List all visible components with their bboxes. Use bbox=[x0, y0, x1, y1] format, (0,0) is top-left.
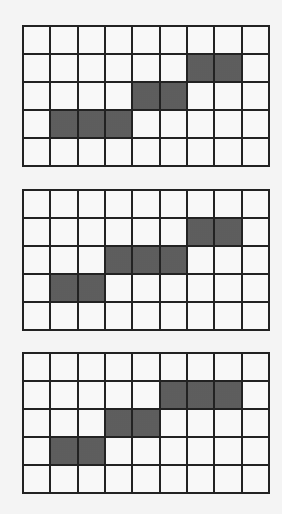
empty-pixel-cell bbox=[160, 110, 187, 138]
filled-pixel-cell bbox=[50, 437, 77, 465]
empty-pixel-cell bbox=[50, 409, 77, 437]
empty-pixel-cell bbox=[50, 353, 77, 381]
pixel-grid-1 bbox=[22, 25, 270, 167]
empty-pixel-cell bbox=[132, 465, 159, 493]
empty-pixel-cell bbox=[242, 110, 269, 138]
empty-pixel-cell bbox=[160, 190, 187, 218]
filled-pixel-cell bbox=[187, 54, 214, 82]
empty-pixel-cell bbox=[78, 302, 105, 330]
empty-pixel-cell bbox=[187, 409, 214, 437]
empty-pixel-cell bbox=[242, 353, 269, 381]
empty-pixel-cell bbox=[187, 353, 214, 381]
empty-pixel-cell bbox=[242, 138, 269, 166]
empty-pixel-cell bbox=[214, 82, 241, 110]
empty-pixel-cell bbox=[78, 26, 105, 54]
empty-pixel-cell bbox=[105, 302, 132, 330]
empty-pixel-cell bbox=[214, 353, 241, 381]
empty-pixel-cell bbox=[23, 465, 50, 493]
empty-pixel-cell bbox=[23, 110, 50, 138]
empty-pixel-cell bbox=[187, 465, 214, 493]
filled-pixel-cell bbox=[214, 218, 241, 246]
empty-pixel-cell bbox=[214, 437, 241, 465]
empty-pixel-cell bbox=[23, 190, 50, 218]
empty-pixel-cell bbox=[78, 381, 105, 409]
empty-pixel-cell bbox=[23, 82, 50, 110]
empty-pixel-cell bbox=[23, 353, 50, 381]
filled-pixel-cell bbox=[105, 110, 132, 138]
empty-pixel-cell bbox=[23, 437, 50, 465]
empty-pixel-cell bbox=[187, 437, 214, 465]
empty-pixel-cell bbox=[50, 302, 77, 330]
filled-pixel-cell bbox=[187, 381, 214, 409]
empty-pixel-cell bbox=[105, 274, 132, 302]
filled-pixel-cell bbox=[78, 110, 105, 138]
empty-pixel-cell bbox=[78, 138, 105, 166]
empty-pixel-cell bbox=[23, 138, 50, 166]
empty-pixel-cell bbox=[187, 190, 214, 218]
empty-pixel-cell bbox=[214, 465, 241, 493]
empty-pixel-cell bbox=[50, 54, 77, 82]
filled-pixel-cell bbox=[160, 82, 187, 110]
empty-pixel-cell bbox=[214, 110, 241, 138]
empty-pixel-cell bbox=[132, 274, 159, 302]
empty-pixel-cell bbox=[242, 246, 269, 274]
filled-pixel-cell bbox=[50, 110, 77, 138]
empty-pixel-cell bbox=[50, 82, 77, 110]
empty-pixel-cell bbox=[160, 54, 187, 82]
empty-pixel-cell bbox=[105, 353, 132, 381]
empty-pixel-cell bbox=[242, 437, 269, 465]
filled-pixel-cell bbox=[160, 246, 187, 274]
empty-pixel-cell bbox=[242, 302, 269, 330]
filled-pixel-cell bbox=[132, 82, 159, 110]
empty-pixel-cell bbox=[187, 138, 214, 166]
empty-pixel-cell bbox=[50, 138, 77, 166]
empty-pixel-cell bbox=[105, 218, 132, 246]
empty-pixel-cell bbox=[105, 26, 132, 54]
empty-pixel-cell bbox=[132, 26, 159, 54]
empty-pixel-cell bbox=[242, 82, 269, 110]
empty-pixel-cell bbox=[187, 82, 214, 110]
empty-pixel-cell bbox=[132, 54, 159, 82]
filled-pixel-cell bbox=[160, 381, 187, 409]
empty-pixel-cell bbox=[105, 138, 132, 166]
empty-pixel-cell bbox=[50, 190, 77, 218]
filled-pixel-cell bbox=[214, 381, 241, 409]
empty-pixel-cell bbox=[78, 190, 105, 218]
empty-pixel-cell bbox=[105, 54, 132, 82]
empty-pixel-cell bbox=[23, 26, 50, 54]
empty-pixel-cell bbox=[214, 26, 241, 54]
empty-pixel-cell bbox=[242, 274, 269, 302]
empty-pixel-cell bbox=[187, 110, 214, 138]
empty-pixel-cell bbox=[160, 138, 187, 166]
empty-pixel-cell bbox=[78, 246, 105, 274]
empty-pixel-cell bbox=[78, 353, 105, 381]
empty-pixel-cell bbox=[160, 302, 187, 330]
empty-pixel-cell bbox=[132, 302, 159, 330]
filled-pixel-cell bbox=[132, 409, 159, 437]
empty-pixel-cell bbox=[78, 82, 105, 110]
empty-pixel-cell bbox=[105, 465, 132, 493]
empty-pixel-cell bbox=[160, 274, 187, 302]
empty-pixel-cell bbox=[23, 274, 50, 302]
empty-pixel-cell bbox=[132, 381, 159, 409]
filled-pixel-cell bbox=[214, 54, 241, 82]
empty-pixel-cell bbox=[23, 54, 50, 82]
empty-pixel-cell bbox=[187, 274, 214, 302]
empty-pixel-cell bbox=[214, 409, 241, 437]
empty-pixel-cell bbox=[50, 381, 77, 409]
empty-pixel-cell bbox=[132, 437, 159, 465]
empty-pixel-cell bbox=[242, 190, 269, 218]
empty-pixel-cell bbox=[242, 54, 269, 82]
pixel-grid-3 bbox=[22, 352, 270, 494]
empty-pixel-cell bbox=[160, 353, 187, 381]
empty-pixel-cell bbox=[242, 409, 269, 437]
empty-pixel-cell bbox=[132, 218, 159, 246]
empty-pixel-cell bbox=[50, 218, 77, 246]
empty-pixel-cell bbox=[132, 110, 159, 138]
filled-pixel-cell bbox=[78, 274, 105, 302]
empty-pixel-cell bbox=[105, 437, 132, 465]
empty-pixel-cell bbox=[105, 381, 132, 409]
empty-pixel-cell bbox=[23, 246, 50, 274]
empty-pixel-cell bbox=[214, 138, 241, 166]
empty-pixel-cell bbox=[214, 190, 241, 218]
